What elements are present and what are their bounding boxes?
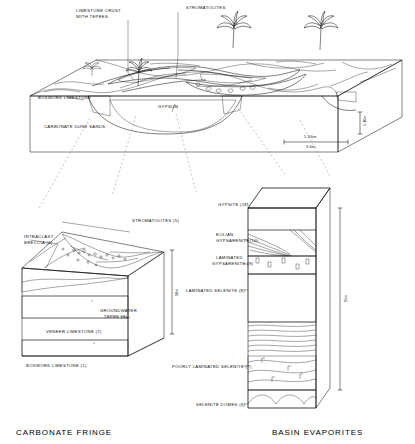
be-column-side: [316, 188, 330, 408]
be-unit-poorly-lam-selenite: [248, 356, 316, 390]
top-block-horizontal-scale: 5-10km 3-6mi.: [284, 135, 348, 149]
palm-tree-icon: [217, 11, 251, 48]
cf-right-face: [128, 252, 164, 356]
scale-v: 5-10m: [363, 115, 367, 126]
be-label-lamgyp-line1: LAMINATED: [216, 255, 243, 260]
label-limestone-crust-line1: LIMESTONE CRUST: [76, 8, 121, 13]
palm-tree-icon: [304, 11, 338, 50]
cf-scale: 10m: [170, 250, 179, 334]
be-label-domes: SELENITE DOMES (6): [196, 402, 246, 407]
label-carbonate-dune-sands: CARBONATE DUNE SANDS: [44, 124, 105, 129]
be-column-top: [248, 188, 330, 208]
label-limestone-crust-line2: WITH TEPEES: [76, 14, 108, 19]
label-boxwork-limestone: BOXWORK LIMESTONE: [38, 95, 91, 100]
cf-label-tepee-line1: GROUNDWATER: [100, 308, 137, 313]
basin-evaporites-column: GYPSITE (11) EOLIAN GYPSARENITE(10) LAMI…: [172, 188, 363, 437]
top-block-vertical-scale: 5-10m: [358, 112, 367, 134]
be-unit-gypsite-top: [248, 188, 330, 208]
be-unit-eolian: [248, 230, 316, 256]
be-label-lamgyp-line2: GYPSARENITE (9): [212, 261, 254, 266]
top-surface-morphology: [30, 60, 396, 96]
caption-basin-evaporites: BASIN EVAPORITES: [272, 428, 363, 437]
cf-label-veneer: VENEER LIMESTONE (2): [46, 329, 102, 334]
label-gypsum: GYPSUM: [158, 104, 178, 109]
top-block-right-face: [338, 60, 402, 152]
subsurface-boundaries: [88, 96, 356, 134]
geology-figure: LIMESTONE CRUST WITH TEPEES STROMATOLITE…: [0, 0, 415, 444]
scale-h-line1: 5-10km: [304, 135, 317, 139]
label-stromatolites: STROMATOLITES: [186, 5, 226, 10]
cf-label-tepee-line2: TEPEE (3): [104, 314, 127, 319]
cf-label-stromatolites: STROMATOLITES (5): [132, 218, 179, 223]
top-block-diagram: LIMESTONE CRUST WITH TEPEES STROMATOLITE…: [30, 5, 402, 152]
be-unit-lam-gypsarenite: [248, 256, 316, 274]
be-label-eolian-line2: GYPSARENITE(10): [216, 238, 259, 243]
be-label-eolian-line1: EOLIAN: [216, 232, 233, 237]
be-unit-lam-selenite: [248, 274, 316, 322]
figure-root: LIMESTONE CRUST WITH TEPEES STROMATOLITE…: [0, 0, 415, 444]
caption-carbonate-fringe: CARBONATE FRINGE: [16, 428, 112, 437]
algal-flecks: [196, 83, 255, 92]
palm-shrub-icon: [83, 63, 101, 76]
cf-boxwork-band: [22, 340, 128, 356]
cf-label-breccia-line2: BRECCIA (4): [24, 240, 53, 245]
be-unit-selenite-domes: [248, 390, 316, 408]
be-label-gypsite: GYPSITE (11): [218, 202, 249, 207]
be-unit-gypsite: [248, 208, 316, 230]
carbonate-fringe-block: STROMATOLITES (5) INTRACLAST BRECCIA (4)…: [16, 218, 179, 437]
be-scale: 15m: [338, 208, 348, 390]
be-leaders: [244, 204, 248, 404]
be-laminae: [248, 325, 316, 351]
cf-label-breccia-line1: INTRACLAST: [24, 234, 54, 239]
boxwork-limestone-wedges: [88, 92, 356, 116]
be-scale-label: 15m: [344, 295, 348, 302]
cf-label-boxwork: BOXWORK LIMESTONE (1): [26, 363, 87, 368]
cf-breccia-zone: [22, 268, 128, 292]
be-label-lamselenite: LAMINATED SELENITE (8): [186, 288, 245, 293]
cf-scale-label: 10m: [175, 289, 179, 296]
be-label-poorlylam: POORLY LAMINATED SELENITE (7): [172, 364, 252, 369]
